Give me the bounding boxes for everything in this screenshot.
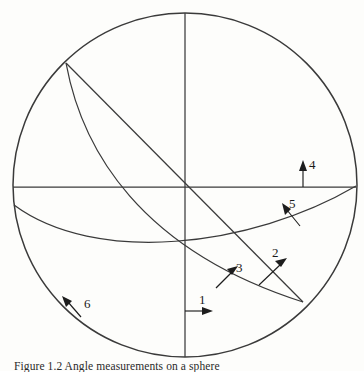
annotation-5-label: 5 — [289, 196, 296, 211]
annotation-2-leader — [259, 264, 281, 285]
annotation-2-label: 2 — [272, 245, 279, 260]
annotation-1-label: 1 — [199, 292, 206, 307]
annotation-5: 5 — [282, 196, 300, 226]
annotation-6-label: 6 — [84, 296, 91, 311]
annotation-4: 4 — [299, 157, 316, 187]
annotation-6-leader — [68, 302, 81, 317]
annotation-1-arrowhead — [202, 307, 213, 315]
annotation-5-leader — [287, 210, 300, 226]
figure-caption: Figure 1.2 Angle measurements on a spher… — [14, 360, 354, 372]
annotation-4-arrowhead — [299, 160, 307, 171]
annotation-2: 2 — [259, 245, 287, 285]
annotation-3: 3 — [216, 260, 243, 288]
annotation-3-leader — [216, 272, 232, 288]
annotation-3-label: 3 — [236, 260, 243, 275]
annotation-1: 1 — [185, 292, 213, 315]
annotation-6: 6 — [62, 296, 91, 317]
annotation-4-label: 4 — [309, 157, 316, 172]
